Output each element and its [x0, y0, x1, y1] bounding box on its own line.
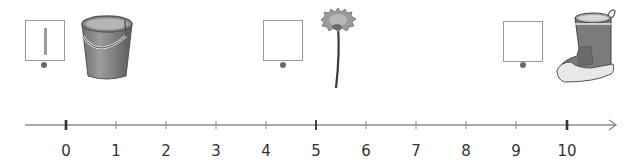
tick-label-7: 7 — [411, 142, 421, 160]
tick-label-1: 1 — [111, 142, 121, 160]
tick-label-6: 6 — [361, 142, 371, 160]
tick-label-3: 3 — [211, 142, 221, 160]
tick-label-9: 9 — [511, 142, 521, 160]
number-line: 0 1 2 3 4 5 6 7 8 9 10 — [0, 0, 643, 165]
tick-label-8: 8 — [461, 142, 471, 160]
tick-label-2: 2 — [161, 142, 171, 160]
tick-label-5: 5 — [311, 142, 321, 160]
tick-label-0: 0 — [61, 142, 71, 160]
tick-label-4: 4 — [261, 142, 271, 160]
tick-label-10: 10 — [557, 142, 576, 160]
